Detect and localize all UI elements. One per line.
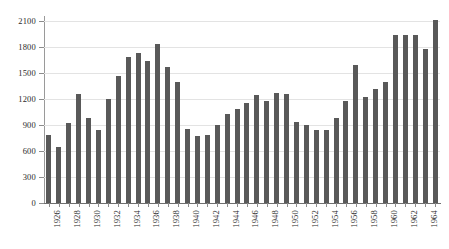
x-tick (79, 203, 80, 207)
x-tick (197, 203, 198, 207)
x-tick-label: 1940 (191, 210, 201, 228)
x-tick (247, 203, 248, 207)
x-tick (237, 203, 238, 207)
x-tick (148, 203, 149, 207)
x-tick (356, 203, 357, 207)
x-axis-line (44, 203, 441, 204)
x-tick (336, 203, 337, 207)
x-tick (128, 203, 129, 207)
x-tick-label: 1926 (52, 210, 62, 228)
bar (195, 136, 200, 203)
x-tick (207, 203, 208, 207)
x-tick-label: 1950 (290, 210, 300, 228)
plot-area (44, 21, 440, 203)
bar (106, 99, 111, 203)
y-axis-labels: 03006009001200150018002100 (0, 0, 36, 249)
x-tick (287, 203, 288, 207)
x-tick-label: 1934 (132, 210, 142, 228)
x-tick (296, 203, 297, 207)
x-tick-label: 1962 (409, 210, 419, 228)
x-tick (138, 203, 139, 207)
x-tick-label: 1952 (310, 210, 320, 228)
x-tick-label: 1956 (349, 210, 359, 228)
bar (403, 35, 408, 203)
x-tick (277, 203, 278, 207)
bar (413, 35, 418, 203)
bar (244, 103, 249, 203)
x-tick-label: 1936 (151, 210, 161, 228)
x-tick (49, 203, 50, 207)
bar (205, 135, 210, 203)
y-tick-label: 1500 (18, 68, 36, 78)
x-tick (69, 203, 70, 207)
bar (136, 53, 141, 203)
x-tick (395, 203, 396, 207)
x-tick (267, 203, 268, 207)
bar (343, 101, 348, 203)
x-tick (158, 203, 159, 207)
x-tick (168, 203, 169, 207)
x-tick (89, 203, 90, 207)
bar (46, 135, 51, 203)
bar-chart: 03006009001200150018002100 1926192819301… (0, 0, 449, 249)
bar (294, 122, 299, 203)
bar (423, 49, 428, 203)
x-tick-label: 1928 (72, 210, 82, 228)
bar (66, 123, 71, 203)
x-tick (405, 203, 406, 207)
bar (393, 35, 398, 203)
bar (383, 82, 388, 203)
bar (334, 118, 339, 203)
bar (254, 95, 259, 203)
bar (116, 76, 121, 203)
x-tick (415, 203, 416, 207)
x-tick-label: 1930 (92, 210, 102, 228)
y-tick-label: 0 (32, 198, 36, 208)
x-tick-label: 1964 (429, 210, 439, 228)
x-tick (98, 203, 99, 207)
x-tick-label: 1932 (112, 210, 122, 228)
bar (126, 57, 131, 203)
x-tick-label: 1960 (389, 210, 399, 228)
x-tick (108, 203, 109, 207)
bar (304, 125, 309, 203)
bar (353, 65, 358, 203)
x-tick (326, 203, 327, 207)
x-tick-label: 1944 (231, 210, 241, 228)
bar (175, 82, 180, 203)
bar (284, 94, 289, 203)
y-tick-label: 300 (23, 172, 36, 182)
x-tick-label: 1946 (250, 210, 260, 228)
x-tick (59, 203, 60, 207)
y-tick-label: 2100 (18, 16, 36, 26)
y-tick-label: 1800 (18, 42, 36, 52)
bar (363, 97, 368, 203)
x-tick-label: 1942 (211, 210, 221, 228)
x-tick (386, 203, 387, 207)
x-tick-label: 1958 (369, 210, 379, 228)
bar (165, 67, 170, 203)
bar (96, 130, 101, 203)
bar (324, 130, 329, 203)
x-tick (425, 203, 426, 207)
bar (86, 118, 91, 203)
bar (433, 20, 438, 203)
x-tick (178, 203, 179, 207)
x-tick (435, 203, 436, 207)
x-tick (346, 203, 347, 207)
x-tick (188, 203, 189, 207)
x-tick (257, 203, 258, 207)
bar (274, 93, 279, 203)
x-tick-label: 1948 (270, 210, 280, 228)
x-tick-label: 1938 (171, 210, 181, 228)
y-tick-label: 1200 (18, 94, 36, 104)
bar-series (44, 21, 440, 203)
x-tick (227, 203, 228, 207)
bar (235, 109, 240, 203)
y-tick-label: 600 (23, 146, 36, 156)
bar (185, 129, 190, 203)
bar (373, 89, 378, 203)
bar (145, 61, 150, 203)
bar (264, 101, 269, 203)
bar (155, 44, 160, 203)
